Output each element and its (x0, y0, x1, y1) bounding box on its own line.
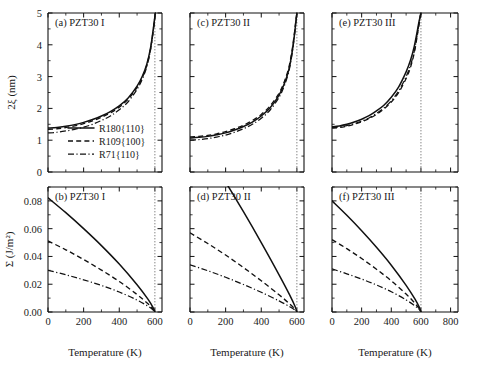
xtick-label-col1: 600 (147, 316, 163, 327)
legend-label-2: R109{100} (99, 136, 145, 147)
panel-a-curve-1 (48, 13, 155, 128)
xtick-label-col1: 200 (76, 316, 92, 327)
xtick-label-col1: 400 (111, 316, 127, 327)
panel-a-curve-3 (48, 13, 155, 133)
ytick-label-top: 3 (37, 72, 42, 83)
xtick-label-col1: 0 (45, 316, 50, 327)
ytick-label-bottom: 0.06 (24, 224, 42, 235)
xtick-label-col2: 600 (289, 316, 305, 327)
xtick-label-col3: 400 (383, 316, 399, 327)
panel-b-curve-3 (48, 270, 155, 312)
xtick-label-col2: 400 (253, 316, 269, 327)
panel-f-curve-2 (332, 240, 421, 312)
panel-c-curve-3 (190, 13, 297, 140)
ytick-label-bottom: 0.00 (24, 307, 42, 318)
panel-a-curve-2 (48, 13, 155, 129)
legend-label-1: R180{110} (99, 123, 145, 134)
panel-c-curve-1 (190, 13, 297, 138)
panel-f-title: (f) PZT30 III (339, 191, 395, 203)
panel-b-title: (b) PZT30 I (55, 191, 106, 203)
figure-panel-grid: (a) PZT30 I(b) PZT30 I(c) PZT30 II(d) PZ… (0, 0, 481, 365)
yaxis-title-bottom: Σ (J/m²) (3, 231, 16, 267)
legend-label-3: R71{110} (99, 149, 140, 160)
xaxis-title-col1: Temperature (K) (68, 346, 142, 359)
panel-e-title: (e) PZT30 III (339, 17, 396, 29)
xaxis-title-col3: Temperature (K) (358, 346, 432, 359)
xtick-label-col2: 0 (187, 316, 192, 327)
xtick-label-col3: 600 (413, 316, 429, 327)
ytick-label-bottom: 0.08 (24, 196, 42, 207)
ytick-label-top: 4 (37, 40, 43, 51)
xaxis-title-col2: Temperature (K) (210, 346, 284, 359)
panel-c-title: (c) PZT30 II (197, 17, 251, 29)
panel-a-title: (a) PZT30 I (55, 17, 105, 29)
ytick-label-top: 1 (37, 135, 42, 146)
panel-e-curve-1 (332, 13, 421, 127)
panel-f-curve-3 (332, 269, 421, 312)
panel-d-curve-3 (190, 265, 297, 312)
xtick-label-col3: 0 (329, 316, 334, 327)
figure-svg: (a) PZT30 I(b) PZT30 I(c) PZT30 II(d) PZ… (0, 0, 481, 365)
ytick-label-bottom: 0.02 (24, 279, 42, 290)
ytick-label-top: 0 (37, 167, 42, 178)
panel-d-title: (d) PZT30 II (197, 191, 251, 203)
ytick-label-top: 5 (37, 8, 42, 19)
xtick-label-col3: 200 (354, 316, 370, 327)
xtick-label-col2: 200 (218, 316, 234, 327)
panel-c-curve-2 (190, 13, 297, 137)
panel-b-curve-1 (48, 198, 155, 312)
panel-d-curve-2 (190, 233, 297, 312)
xtick-label-col3: 800 (443, 316, 459, 327)
yaxis-title-top: 2ξ (nm) (5, 75, 18, 110)
ytick-label-bottom: 0.04 (24, 251, 43, 262)
ytick-label-top: 2 (37, 103, 42, 114)
